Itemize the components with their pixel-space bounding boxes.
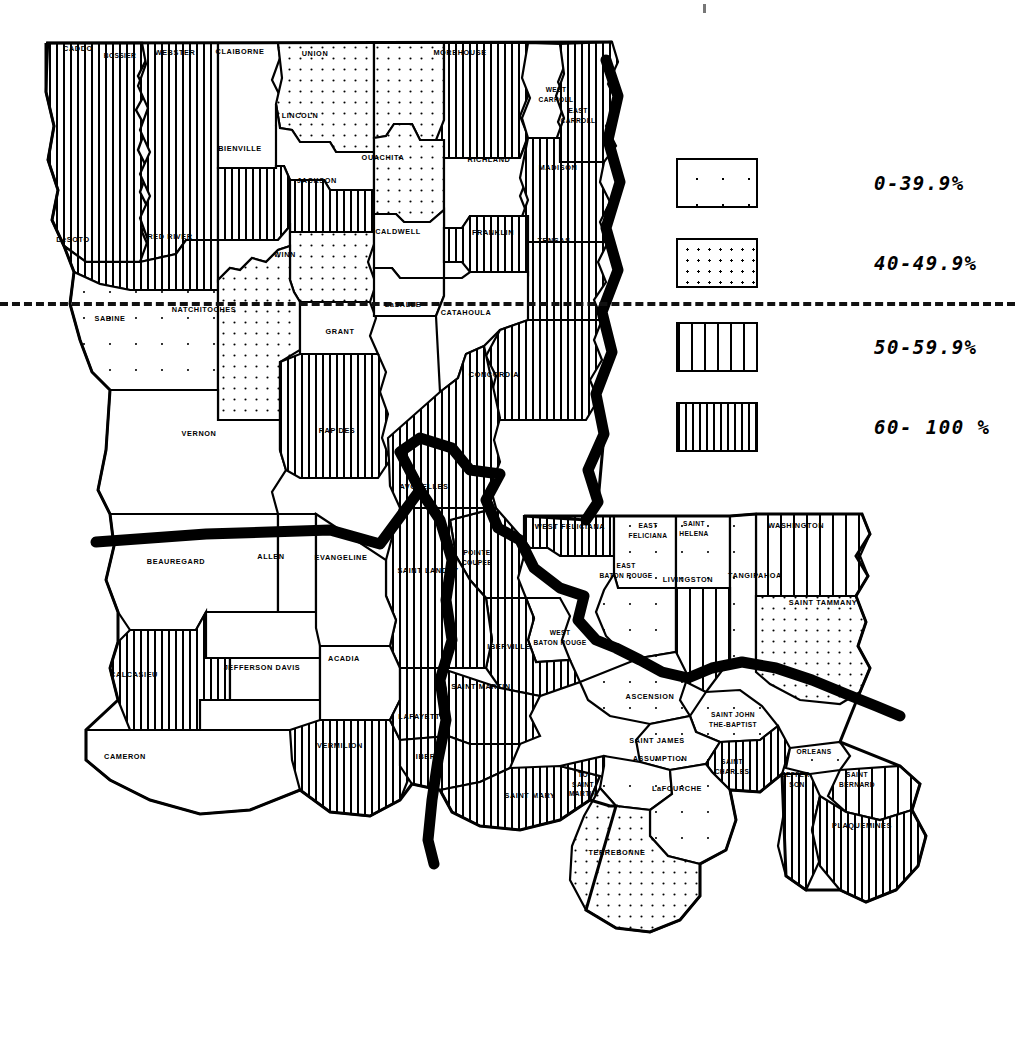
parish-label: RICHLAND — [468, 155, 511, 165]
parish-bienville — [218, 166, 290, 240]
legend-label-2: 50-59.9% — [874, 336, 978, 358]
parish-caddo — [46, 43, 150, 262]
parish-label: SAINT MARTIN — [451, 682, 511, 692]
parish-label: SAINTCHARLES — [715, 757, 750, 776]
parish-label: EVANGELINE — [315, 553, 368, 563]
legend-divider — [0, 302, 1015, 306]
parish-bossier — [138, 43, 218, 262]
parish-label: WESTCARROLL — [538, 85, 573, 104]
parish-label: MADISON — [539, 163, 578, 173]
parish-label: DeSOTO — [56, 235, 89, 245]
parish-label: WEBSTER — [155, 48, 196, 58]
parish-label: CADDO — [63, 44, 93, 54]
parish-label: TERREBONNE — [588, 848, 645, 858]
parish-label: VERNON — [182, 429, 217, 439]
parish-label: VERMILION — [317, 741, 363, 751]
parish-tensas — [520, 242, 608, 320]
parish-label: WESTBATON ROUGE — [533, 628, 586, 647]
parish-rapides — [280, 354, 390, 478]
parish-saint-tammany — [756, 596, 870, 704]
parish-label: WEST FELICIANA — [535, 522, 605, 532]
legend-swatch-sparse-dots-icon — [676, 158, 758, 208]
parish-label: CALDWELL — [375, 227, 421, 237]
parish-label: ASSUMPTION — [633, 754, 688, 764]
parish-label: CATAHOULA — [441, 308, 492, 318]
parish-label: OUACHITA — [362, 153, 405, 163]
parish-label: AVOYELLES — [399, 482, 448, 492]
parish-label: SABINE — [94, 314, 125, 324]
parish-label: LaSALLE — [385, 300, 422, 310]
parish-label: CAMERON — [104, 752, 146, 762]
parish-label: LAFAYETTE — [398, 712, 445, 722]
parish-vermilion — [290, 720, 412, 816]
parish-label: LaFOURCHE — [652, 784, 702, 794]
parish-label: CLAIBORNE — [216, 47, 265, 57]
parish-label: ACADIA — [328, 654, 360, 664]
parish-label: LIVINGSTON — [663, 575, 713, 585]
parish-label: SAINT TAMMANY — [789, 598, 857, 608]
parish-label: LINCOLN — [282, 111, 319, 121]
percentage-legend: 0-39.9% 40-49.9% 50-59.9% 60- 100 % — [676, 150, 1006, 450]
legend-label-1: 40-49.9% — [874, 252, 978, 274]
map-canvas: 0-39.9% 40-49.9% 50-59.9% 60- 100 % CADD… — [0, 0, 1015, 1048]
parish-label: EASTFELICIANA — [629, 521, 668, 540]
parish-label: SAINT MARY — [504, 791, 555, 801]
legend-swatch-wide-stripes-icon — [676, 322, 758, 372]
parish-label: IBERVILLE — [487, 642, 530, 652]
parish-label: WINN — [274, 250, 296, 260]
parish-label: RED RIVER — [147, 232, 192, 242]
parish-label: SAINTHELENA — [679, 519, 709, 538]
parish-label: SAINT JAMES — [629, 736, 685, 746]
parish-label: FRANKLIN — [472, 228, 514, 238]
parish-label: TENSAS — [537, 236, 570, 246]
parish-label: BIENVILLE — [218, 144, 262, 154]
parish-label: POINTECOUPEE — [462, 548, 492, 567]
legend-item-0: 0-39.9% — [676, 158, 758, 208]
legend-swatch-dense-dots-icon — [676, 238, 758, 288]
parish-label: SAINT JOHNTHE-BAPTIST — [709, 710, 757, 729]
parish-label: EASTCARROLL — [560, 106, 595, 125]
parish-label: NATCHITOCHES — [172, 305, 237, 315]
legend-item-3: 60- 100 % — [676, 402, 758, 452]
parish-label: CONCORDIA — [469, 370, 519, 380]
parish-label: SAINT LANDRY — [397, 566, 458, 576]
parish-label: IBERIA — [416, 752, 444, 762]
parish-label: ORLEANS — [796, 747, 831, 757]
parish-label: GRANT — [326, 327, 355, 337]
parish-winn — [290, 232, 376, 302]
parish-label: MOREHOUSE — [433, 48, 486, 58]
parish-label: TANGIPAHOA — [728, 571, 782, 581]
parish-tangipahoa — [730, 514, 756, 660]
parish-label: CALCASIEU — [110, 670, 158, 680]
parish-label: RAPIDES — [319, 426, 356, 436]
legend-label-3: 60- 100 % — [874, 416, 990, 438]
parish-label: EASTBATON ROUGE — [599, 561, 652, 580]
parish-label: SAINTBERNARD — [839, 770, 875, 789]
legend-item-2: 50-59.9% — [676, 322, 758, 372]
parish-label: UNION — [302, 49, 329, 59]
parish-label: ALLEN — [257, 552, 284, 562]
parish-label: WASHINGTON — [768, 521, 824, 531]
parish-label: TOSAINTMARTIN — [569, 770, 597, 799]
legend-label-0: 0-39.9% — [874, 172, 965, 194]
parish-morehouse — [436, 43, 528, 158]
parish-label: JEFFERSON DAVIS — [224, 663, 301, 673]
legend-swatch-dense-stripes-icon — [676, 402, 758, 452]
parish-label: JEFFER-SON — [782, 770, 812, 789]
parish-label: BOSSIER — [104, 51, 136, 61]
legend-item-1: 40-49.9% — [676, 238, 758, 288]
parish-label: PLAQUEMINES — [832, 821, 892, 831]
parish-label: BEAUREGARD — [147, 557, 205, 567]
parish-label: ASCENSION — [626, 692, 675, 702]
parish-label: JACKSON — [297, 176, 337, 186]
